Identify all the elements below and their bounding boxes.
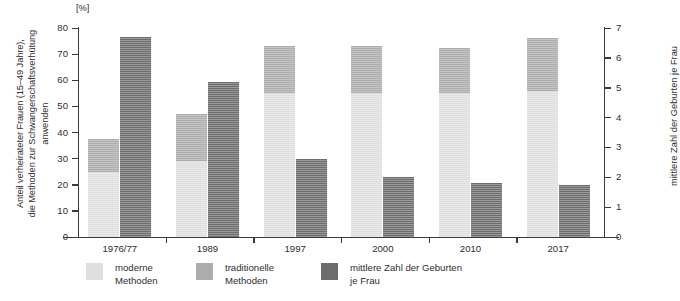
left-axis-tick-label: 80 [38, 23, 68, 33]
left-axis-tick-label: 30 [38, 154, 68, 164]
x-axis-tick-label: 1989 [163, 243, 253, 254]
right-axis-tick-label: 5 [616, 83, 646, 93]
x-axis-tick-label: 2010 [426, 243, 516, 254]
right-axis-tick-label: 7 [616, 23, 646, 33]
left-axis-tick [72, 210, 78, 211]
legend-swatch-traditionelle [196, 263, 213, 280]
left-axis-tick [72, 132, 78, 133]
bar-mittlere-zahl-geburten [120, 37, 151, 237]
left-axis-tick [72, 106, 78, 107]
bar-traditionelle-methoden [264, 46, 295, 93]
right-axis-tick-label: 3 [616, 142, 646, 152]
left-axis-tick-label: 10 [38, 206, 68, 216]
left-axis-tick-label: 20 [38, 180, 68, 190]
legend-item-moderne-methoden[interactable]: moderne Methoden [86, 262, 158, 287]
left-axis-tick-label: 40 [38, 128, 68, 138]
bar-mittlere-zahl-geburten [471, 183, 502, 237]
legend-item-geburten[interactable]: mittlere Zahl der Geburten je Frau [321, 262, 462, 287]
right-axis-tick [605, 57, 611, 58]
right-axis-tick [605, 117, 611, 118]
left-axis-tick-label: 0 [38, 232, 68, 242]
left-axis-tick [72, 54, 78, 55]
right-axis-tick [605, 177, 611, 178]
right-axis-tick-label: 6 [616, 53, 646, 63]
legend-label-geburten: mittlere Zahl der Geburten je Frau [350, 262, 462, 287]
left-axis-tick-label: 50 [38, 101, 68, 111]
right-axis-tick [605, 147, 611, 148]
bar-moderne-methoden [264, 93, 295, 237]
bar-moderne-methoden [88, 172, 119, 237]
left-axis-tick [72, 28, 78, 29]
legend: moderne Methoden traditionelle Methoden … [0, 262, 679, 301]
right-axis-tick [605, 207, 611, 208]
right-axis-tick-label: 4 [616, 113, 646, 123]
right-axis-tick-label: 1 [616, 202, 646, 212]
left-axis-tick [72, 80, 78, 81]
x-axis-tick [253, 238, 254, 243]
bar-traditionelle-methoden [439, 48, 470, 94]
right-axis-tick [605, 237, 611, 238]
bar-mittlere-zahl-geburten [296, 159, 327, 237]
right-axis-tick [605, 87, 611, 88]
x-axis-tick-label: 2017 [513, 243, 603, 254]
legend-item-traditionelle-methoden[interactable]: traditionelle Methoden [196, 262, 274, 287]
bar-traditionelle-methoden [176, 114, 207, 161]
x-axis-tick [166, 238, 167, 243]
right-axis-tick [605, 28, 611, 29]
x-axis-tick-label: 1976/77 [75, 243, 165, 254]
bar-mittlere-zahl-geburten [208, 82, 239, 237]
legend-swatch-moderne [86, 263, 103, 280]
bar-moderne-methoden [439, 93, 470, 237]
x-axis-tick-label: 2000 [338, 243, 428, 254]
bar-moderne-methoden [351, 93, 382, 237]
bar-traditionelle-methoden [527, 38, 558, 90]
left-axis-tick [72, 158, 78, 159]
legend-label-moderne: moderne Methoden [115, 262, 158, 287]
x-axis-tick [429, 238, 430, 243]
legend-swatch-geburten [321, 263, 338, 280]
right-axis-tick-label: 0 [616, 232, 646, 242]
bar-traditionelle-methoden [351, 46, 382, 93]
left-axis-tick [72, 184, 78, 185]
right-axis-tick-label: 2 [616, 172, 646, 182]
bar-moderne-methoden [176, 161, 207, 237]
left-axis-tick-label: 60 [38, 75, 68, 85]
left-axis-tick-label: 70 [38, 49, 68, 59]
left-axis-tick [72, 237, 78, 238]
legend-label-traditionelle: traditionelle Methoden [225, 262, 274, 287]
x-axis-tick [341, 238, 342, 243]
x-axis-tick [516, 238, 517, 243]
bar-moderne-methoden [527, 91, 558, 237]
bar-traditionelle-methoden [88, 139, 119, 172]
x-axis-tick-label: 1997 [250, 243, 340, 254]
bar-mittlere-zahl-geburten [383, 177, 414, 237]
bar-mittlere-zahl-geburten [559, 185, 590, 237]
